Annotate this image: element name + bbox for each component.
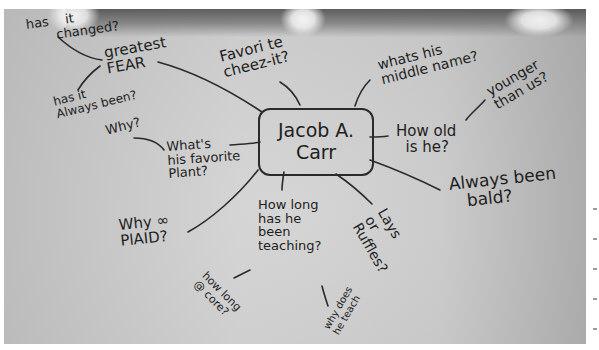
- node-why-plaid: Why ∞ PlAID?: [118, 213, 172, 250]
- center-node-line2: Carr: [296, 141, 336, 163]
- connector-middlename-center: [355, 80, 370, 106]
- node-how-old: How old is he?: [396, 124, 456, 156]
- center-node-line1: Jacob A.: [278, 119, 354, 141]
- connector-why-plant: [134, 138, 164, 150]
- connector-whyteach-teaching: [322, 286, 328, 306]
- connector-changed-fear: [58, 37, 102, 60]
- node-how-long-teaching: How long has he been teaching?: [258, 198, 321, 253]
- connector-lays-center: [336, 174, 372, 204]
- center-node-label: Jacob A. Carr: [278, 120, 354, 164]
- connector-bald-center: [370, 160, 440, 190]
- connector-plaid-center: [188, 170, 258, 232]
- node-favorite-plant: What's his favorite Plant?: [166, 135, 242, 181]
- connector-core-teaching: [234, 270, 250, 278]
- connector-cheezit-center: [280, 82, 300, 105]
- page-edge-marks: [593, 180, 597, 340]
- connector-younger-howold: [466, 100, 485, 120]
- center-node: Jacob A. Carr: [258, 108, 374, 176]
